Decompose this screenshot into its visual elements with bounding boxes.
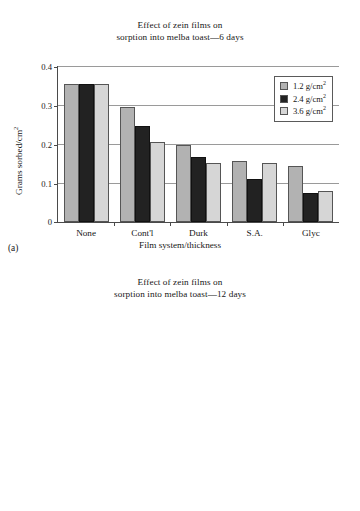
chart-a-legend-item-2: 2.4 g/cm2	[280, 93, 326, 106]
chart-a-bar-3-2	[206, 163, 221, 222]
chart-a-bar-2-2	[191, 157, 206, 222]
chart-b-title-line2: sorption into melba toast—12 days	[0, 289, 360, 301]
chart-a-bar-2-1	[135, 126, 150, 222]
chart-a-bar-2-0	[79, 84, 94, 222]
chart-a-y-tick-label-3: 0.3	[41, 101, 52, 111]
chart-a-x-axis-label: Film system/thickness	[0, 240, 360, 250]
chart-a-bar-1-0	[64, 84, 79, 222]
chart-b-title-line1: Effect of zein films on	[0, 277, 360, 289]
chart-a-y-tick-label-0: 0	[48, 217, 52, 227]
chart-a-x-tick-label-1: Cont'l	[131, 228, 153, 238]
chart-a-legend-item-1: 1.2 g/cm2	[280, 80, 326, 93]
chart-a-y-axis-label: Grams sorbed/cm2	[14, 127, 24, 195]
chart-a-plot: 00.10.20.30.4 NoneCont'lDurkS.A.Glyc 1.2…	[57, 66, 339, 223]
chart-a-y-tick-0	[54, 222, 58, 223]
chart-a-y-tick-label-1: 0.1	[41, 179, 52, 189]
chart-a-x-tick-3	[227, 222, 228, 226]
chart-a-bar-3-1	[150, 142, 165, 222]
chart-a-y-tick-label-2: 0.2	[41, 140, 52, 150]
chart-a-x-tick-2	[170, 222, 171, 226]
chart-a-bar-3-4	[318, 191, 333, 222]
chart-panel-a: Effect of zein films on sorption into me…	[0, 0, 360, 255]
chart-a-title: Effect of zein films on sorption into me…	[0, 0, 360, 43]
chart-a-x-tick-label-3: S.A.	[247, 228, 263, 238]
chart-a-legend-swatch-icon-3	[280, 107, 288, 115]
chart-a-legend-swatch-icon-2	[280, 95, 288, 103]
chart-a-bar-2-3	[247, 179, 262, 222]
chart-a-legend-label-1: 1.2 g/cm2	[293, 80, 326, 93]
chart-a-title-line2: sorption into melba toast—6 days	[0, 32, 360, 44]
chart-a-group-none: None	[58, 66, 114, 222]
chart-a-y-axis-label-text: Grams sorbed/cm	[14, 130, 24, 195]
chart-a-legend: 1.2 g/cm22.4 g/cm23.6 g/cm2	[274, 76, 333, 122]
chart-panel-b: Effect of zein films on sorption into me…	[0, 255, 360, 511]
chart-a-bar-1-2	[176, 145, 191, 222]
chart-a-x-tick-label-4: Glyc	[302, 228, 320, 238]
chart-a-y-axis-label-sup: 2	[12, 127, 19, 130]
chart-a-bar-1-3	[232, 161, 247, 222]
chart-a-legend-swatch-icon-1	[280, 82, 288, 90]
chart-a-x-tick-1	[114, 222, 115, 226]
chart-a-x-tick-label-2: Durk	[189, 228, 208, 238]
chart-a-legend-label-2: 2.4 g/cm2	[293, 93, 326, 106]
chart-a-x-tick-label-0: None	[76, 228, 96, 238]
chart-a-x-tick-4	[283, 222, 284, 226]
chart-a-legend-label-3: 3.6 g/cm2	[293, 105, 326, 118]
chart-a-bar-3-0	[94, 84, 109, 222]
chart-a-title-line1: Effect of zein films on	[0, 20, 360, 32]
chart-b-title: Effect of zein films on sorption into me…	[0, 255, 360, 300]
chart-a-bar-3-3	[262, 163, 277, 222]
chart-a-group-durk: Durk	[170, 66, 226, 222]
chart-a-bar-1-1	[120, 107, 135, 222]
chart-a-legend-item-3: 3.6 g/cm2	[280, 105, 326, 118]
chart-a-group-cont-l: Cont'l	[114, 66, 170, 222]
chart-a-bar-2-4	[303, 193, 318, 222]
panel-label-a: (a)	[8, 243, 18, 253]
chart-a-y-tick-label-4: 0.4	[41, 62, 52, 72]
chart-a-bar-1-4	[288, 166, 303, 222]
